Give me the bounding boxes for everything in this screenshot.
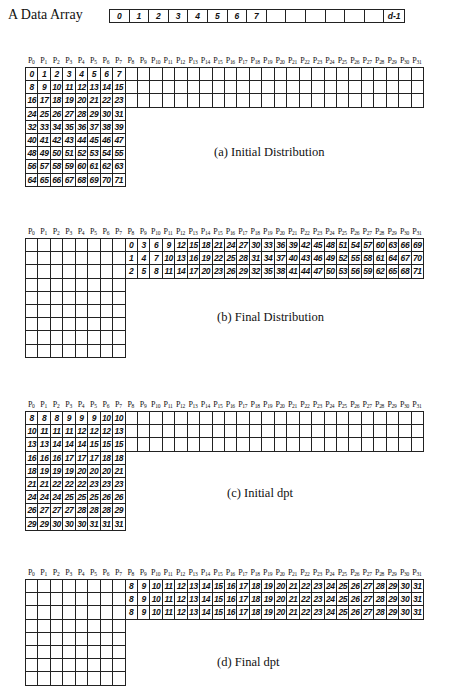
grid-cell: 15 [112, 437, 125, 451]
grid-cell [411, 93, 424, 107]
grid-cell: 56 [348, 264, 361, 278]
grid-cell: 14 [50, 437, 63, 451]
grid-cell [62, 330, 75, 344]
grid-cell [249, 67, 262, 81]
grid-cell: 12 [87, 424, 100, 438]
processor-label: P0 [25, 56, 37, 66]
processor-label: P16 [224, 568, 236, 578]
processor-label: P17 [236, 400, 248, 410]
processor-label: P23 [311, 568, 323, 578]
grid-cell: 71 [112, 173, 125, 187]
grid-cell [324, 437, 337, 451]
processor-label: P7 [112, 56, 124, 66]
grid-cell: 16 [25, 93, 38, 107]
processor-label: P22 [299, 56, 311, 66]
grid-cell: 16 [187, 251, 200, 265]
grid-cell: 23 [112, 93, 125, 107]
grid-cell [62, 592, 75, 606]
grid-cell [112, 344, 125, 358]
grid-cell [311, 411, 324, 425]
grid-cell [336, 411, 349, 425]
grid-cell: 19 [261, 605, 274, 619]
grid-cell [212, 411, 225, 425]
grid-cell [75, 238, 88, 252]
grid-cell [149, 424, 162, 438]
processor-label: P10 [149, 56, 161, 66]
grid-cell [386, 424, 399, 438]
grid-cell [75, 264, 88, 278]
processor-index: 23 [317, 59, 322, 65]
grid-cell [87, 278, 100, 292]
grid-cell [62, 278, 75, 292]
grid-cell [311, 67, 324, 81]
grid-cell [87, 344, 100, 358]
grid-cell: 59 [361, 264, 374, 278]
grid-cell: 13 [187, 579, 200, 593]
grid-cell: 31 [411, 592, 424, 606]
grid-cell: 21 [286, 579, 299, 593]
processor-index: 9 [144, 59, 146, 65]
grid-cell [386, 80, 399, 94]
grid-cell [25, 344, 38, 358]
grid-cell [112, 605, 125, 619]
grid-cell: 55 [112, 146, 125, 160]
grid-cell: 3 [137, 238, 150, 252]
processor-label: P23 [311, 227, 323, 237]
grid-cell: 21 [112, 464, 125, 478]
grid-cell: 44 [75, 133, 88, 147]
grid-cell: 16 [224, 579, 237, 593]
grid-cell [62, 645, 75, 659]
grid-cell [25, 304, 38, 318]
grid-cell [87, 251, 100, 265]
grid-cell: 19 [199, 251, 212, 265]
grid-cell: 23 [100, 477, 113, 491]
grid-cell: 26 [224, 264, 237, 278]
grid-cell: 13 [25, 437, 38, 451]
grid-cell [212, 93, 225, 107]
grid-cell: 30 [50, 517, 63, 531]
panel-caption: (c) Initial dpt [227, 485, 293, 501]
grid-cell: 52 [75, 146, 88, 160]
grid-cell [37, 632, 50, 646]
grid-cell: 39 [286, 238, 299, 252]
processor-index: 28 [379, 403, 384, 409]
grid-cell [361, 67, 374, 81]
grid-cell [100, 304, 113, 318]
processor-index: 5 [94, 230, 96, 236]
grid-cell: 66 [50, 173, 63, 187]
processor-index: 24 [329, 403, 334, 409]
grid-cell [299, 67, 312, 81]
processor-index: 16 [230, 403, 235, 409]
grid-cell: 45 [311, 238, 324, 252]
grid-cell [398, 411, 411, 425]
grid-cell [411, 424, 424, 438]
processor-label: P13 [187, 568, 199, 578]
processor-label: P3 [62, 227, 74, 237]
grid-cell [37, 592, 50, 606]
grid-cell: 14 [62, 437, 75, 451]
grid-cell [112, 645, 125, 659]
grid-cell [50, 278, 63, 292]
grid-cell: 14 [199, 579, 212, 593]
processor-index: 6 [107, 403, 109, 409]
processor-index: 31 [416, 59, 421, 65]
processor-label: P23 [311, 56, 323, 66]
grid-cell [361, 411, 374, 425]
processor-index: 21 [292, 403, 297, 409]
processor-index: 5 [94, 571, 96, 577]
grid-cell: 32 [25, 120, 38, 134]
grid-cell [37, 278, 50, 292]
grid-cell: 62 [373, 264, 386, 278]
processor-index: 30 [404, 403, 409, 409]
processor-index: 26 [354, 403, 359, 409]
grid-cell: 15 [212, 605, 225, 619]
grid-cell [25, 317, 38, 331]
grid-cell: 25 [224, 251, 237, 265]
processor-index: 5 [94, 403, 96, 409]
grid-cell: 15 [87, 437, 100, 451]
processor-label: P31 [411, 400, 423, 410]
grid-cell: 7 [112, 67, 125, 81]
grid-cell [324, 80, 337, 94]
grid-cell: 10 [149, 579, 162, 593]
grid-cell [37, 317, 50, 331]
